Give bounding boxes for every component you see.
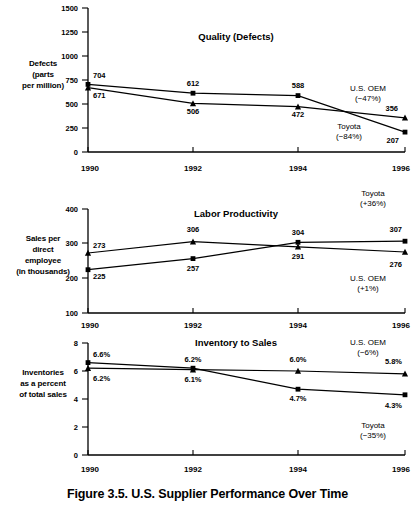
x-tick-label: 1990 (81, 465, 99, 474)
y-tick-label: 400 (65, 205, 78, 214)
data-label: 6.1% (184, 375, 201, 384)
x-tick-labels: 1990 1992 1994 1996 (81, 465, 410, 474)
x-tick-label: 1992 (184, 465, 202, 474)
chart-title-quality: Quality (Defects) (198, 31, 274, 42)
y-tick-label: 500 (65, 100, 78, 109)
x-tick-label: 1990 (81, 164, 99, 173)
series-annotation-us-oem: U.S. OEM (350, 84, 386, 93)
x-tick-label: 1992 (184, 164, 202, 173)
series-annotation-us-oem: U.S. OEM (350, 274, 386, 283)
series-annotation-us-oem: U.S. OEM (350, 338, 386, 347)
data-label: 306 (187, 225, 200, 234)
chart-panel-quality: Defects (parts per million) 0 250 500 (0, 0, 415, 180)
y-tick-marks (82, 209, 88, 313)
series-annotations-inventory: U.S. OEM (−6%) Toyota (−35%) (350, 338, 386, 440)
series-annotations-quality: U.S. OEM (−47%) Toyota (−84%) (336, 84, 386, 141)
data-label: 5.8% (385, 357, 402, 366)
y-tick-label: 200 (65, 274, 78, 283)
data-label: 257 (187, 264, 200, 273)
data-label: 6.0% (289, 355, 306, 364)
y-tick-label: 250 (65, 124, 78, 133)
x-tick-marks (88, 308, 405, 313)
series-markers-us-oem (85, 238, 408, 255)
data-label: 612 (187, 79, 200, 88)
x-tick-label: 1994 (289, 164, 307, 173)
data-label: 472 (292, 110, 305, 119)
y-tick-marks (82, 8, 88, 152)
chart-title-inventory: Inventory to Sales (195, 337, 277, 348)
y-tick-label: 100 (65, 309, 78, 318)
labor-productivity-chart-svg: 100 200 300 400 1990 1992 1994 1996 Labo… (0, 180, 415, 335)
x-tick-labels: 1990 1992 1994 1996 (81, 164, 410, 173)
figure-caption: Figure 3.5. U.S. Supplier Performance Ov… (0, 487, 415, 501)
chart-title-labor: Labor Productivity (194, 208, 279, 219)
data-label: 225 (93, 272, 106, 281)
quality-chart-svg: 0 250 500 750 1000 1250 1500 1990 1992 1… (0, 0, 415, 180)
x-tick-label: 1996 (392, 465, 410, 474)
data-label: 671 (93, 91, 106, 100)
data-label: 6.2% (184, 355, 201, 364)
data-label: 4.3% (385, 401, 402, 410)
y-tick-label: 8 (74, 339, 78, 348)
y-tick-label: 0 (74, 451, 78, 460)
series-annotation-change-toyota: (−84%) (336, 132, 362, 141)
x-tick-label: 1990 (81, 321, 99, 330)
data-label: 307 (389, 225, 402, 234)
data-label: 6.2% (93, 374, 110, 383)
y-tick-label: 6 (74, 367, 78, 376)
series-annotation-change-us-oem: (+1%) (357, 284, 379, 293)
x-tick-label: 1996 (392, 321, 410, 330)
chart-panel-inventory-to-sales: Inventories as a percent of total sales … (0, 335, 415, 480)
y-tick-labels: 100 200 300 400 (65, 205, 78, 318)
data-label: 276 (389, 260, 402, 269)
data-label: 291 (292, 252, 305, 261)
y-tick-labels: 0 2 4 6 8 (74, 339, 79, 460)
inventory-to-sales-chart-svg: 0 2 4 6 8 1990 1992 1994 1996 Inventory … (0, 335, 415, 480)
series-annotation-change-us-oem: (−6%) (357, 348, 379, 357)
series-line-toyota (88, 241, 405, 270)
series-annotation-change-us-oem: (−47%) (355, 94, 381, 103)
data-label: 588 (292, 81, 305, 90)
y-tick-label: 1250 (61, 28, 78, 37)
chart-panel-labor-productivity: Sales per direct employee (in thousands)… (0, 180, 415, 335)
y-tick-label: 2 (74, 423, 78, 432)
series-line-us-oem (88, 368, 405, 374)
figure-container: Defects (parts per million) 0 250 500 (0, 0, 415, 511)
series-annotation-change-toyota: (+36%) (360, 199, 386, 208)
x-tick-marks (88, 450, 405, 455)
data-labels-labor: 225 257 304 307 273 306 291 276 (93, 225, 402, 281)
x-tick-labels: 1990 1992 1994 1996 (81, 321, 410, 330)
y-tick-label: 300 (65, 239, 78, 248)
y-tick-label: 750 (65, 76, 78, 85)
data-label: 704 (93, 71, 106, 80)
x-tick-marks (88, 147, 405, 152)
x-tick-label: 1992 (184, 321, 202, 330)
series-line-us-oem (88, 242, 405, 253)
data-label: 506 (187, 107, 200, 116)
y-tick-label: 0 (74, 148, 78, 157)
y-tick-label: 4 (74, 395, 79, 404)
data-label: 4.7% (289, 394, 306, 403)
y-tick-marks (82, 343, 88, 455)
y-tick-labels: 0 250 500 750 1000 1250 1500 (61, 4, 78, 157)
x-tick-label: 1994 (289, 321, 307, 330)
series-annotation-change-toyota: (−35%) (360, 431, 386, 440)
y-tick-label: 1000 (61, 52, 78, 61)
series-line-toyota (88, 363, 405, 395)
data-label: 207 (386, 136, 399, 145)
data-label: 273 (93, 241, 106, 250)
x-tick-label: 1994 (289, 465, 307, 474)
data-label: 304 (292, 228, 305, 237)
data-label: 356 (385, 104, 398, 113)
data-labels-inventory: 6.6% 6.2% 4.7% 4.3% 6.2% 6.1% 6.0% 5.8% (93, 350, 402, 410)
data-label: 6.6% (93, 350, 110, 359)
x-tick-label: 1996 (392, 164, 410, 173)
series-annotation-toyota: Toyota (361, 189, 385, 198)
series-annotation-toyota: Toyota (361, 421, 385, 430)
y-tick-label: 1500 (61, 4, 78, 13)
series-annotation-toyota: Toyota (337, 122, 361, 131)
